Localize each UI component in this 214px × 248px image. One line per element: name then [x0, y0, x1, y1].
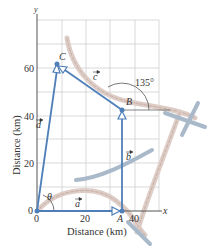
x-tick-20: 20 — [80, 213, 90, 224]
point-c — [55, 62, 60, 67]
label-theta: θ — [47, 191, 52, 202]
x-axis-name: x — [162, 205, 168, 216]
vector-d — [37, 70, 57, 211]
x-tick-40: 40 — [129, 213, 139, 224]
label-point-c: C — [59, 51, 66, 62]
vector-c — [62, 68, 122, 110]
y-axis-name: y — [33, 5, 38, 14]
point-b — [120, 108, 125, 113]
x-axis-title: Distance (km) — [67, 226, 127, 238]
y-tick-60: 60 — [24, 63, 34, 74]
y-tick-20: 20 — [24, 158, 34, 169]
label-angle-135: 135° — [135, 77, 154, 88]
y-tick-40: 40 — [24, 111, 34, 122]
grid — [37, 20, 159, 211]
label-point-b: B — [126, 96, 132, 107]
cross-path-middle — [76, 150, 152, 180]
vector-label-arrows — [36, 71, 133, 201]
vector-displacement-diagram: 0 20 40 0 20 40 60 x y Distance (km) Dis… — [0, 0, 214, 248]
trail-path-right — [137, 112, 180, 232]
y-axis-title: Distance (km) — [11, 115, 23, 175]
x-tick-0: 0 — [34, 213, 39, 224]
y-tick-0: 0 — [28, 205, 33, 216]
label-point-a: A — [116, 213, 124, 224]
